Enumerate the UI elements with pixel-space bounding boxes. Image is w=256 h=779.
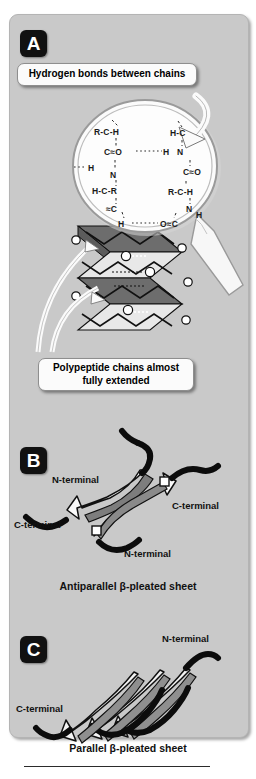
panel-c-graphics (0, 0, 256, 779)
label-c-n-terminal: N-terminal (162, 633, 209, 644)
caption-panel-c: Parallel β-pleated sheet (0, 742, 256, 754)
parallel-strands (36, 654, 218, 743)
figure-bottom-rule (24, 766, 210, 767)
label-c-c-terminal: C-terminal (16, 703, 63, 714)
figure-root: A (0, 0, 256, 779)
